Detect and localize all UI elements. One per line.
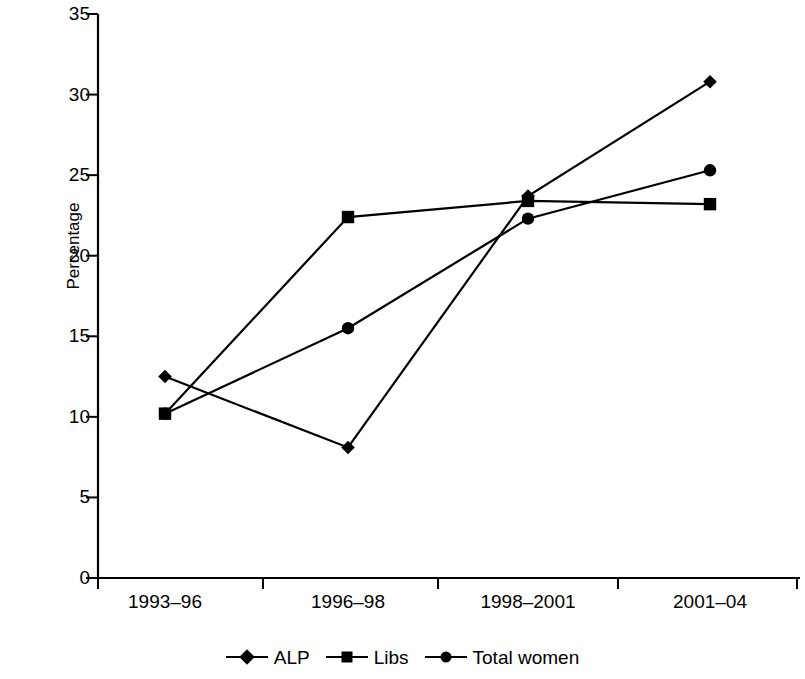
- series-alp: [158, 75, 717, 454]
- legend-circle-icon: [425, 649, 467, 665]
- legend-label: ALP: [274, 648, 310, 667]
- data-point-marker: [522, 212, 534, 224]
- legend-label: Total women: [473, 648, 580, 667]
- data-point-marker: [159, 407, 171, 419]
- x-axis-ticks: [98, 578, 797, 589]
- series-line: [165, 170, 710, 413]
- data-point-marker: [158, 370, 172, 384]
- legend-entry[interactable]: ALP: [226, 648, 310, 667]
- plot-area: [0, 0, 805, 679]
- y-axis-ticks: [86, 14, 98, 578]
- series-line: [165, 201, 710, 414]
- data-point-marker: [522, 195, 534, 207]
- data-point-marker: [703, 75, 717, 89]
- data-point-marker: [704, 164, 716, 176]
- legend-label: Libs: [374, 648, 409, 667]
- legend-square-icon: [326, 649, 368, 665]
- legend-diamond-icon: [226, 649, 268, 665]
- data-point-marker: [704, 198, 716, 210]
- legend-entry[interactable]: Libs: [326, 648, 409, 667]
- legend-entry[interactable]: Total women: [425, 648, 580, 667]
- chart-figure: Percentage 05101520253035 1993–961996–98…: [0, 0, 805, 679]
- data-point-marker: [342, 211, 354, 223]
- series-line: [165, 82, 710, 448]
- series-libs: [159, 195, 716, 420]
- data-point-marker: [342, 322, 354, 334]
- chart-legend: ALPLibsTotal women: [0, 640, 805, 674]
- axis-lines: [98, 14, 800, 578]
